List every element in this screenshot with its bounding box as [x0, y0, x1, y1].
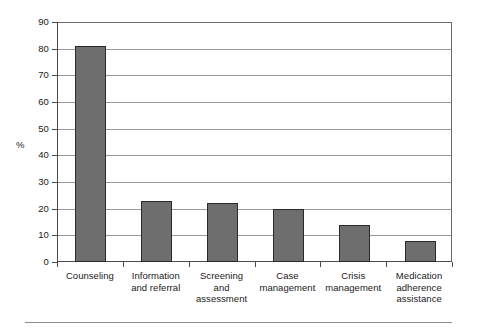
x-tick-label-line: Counseling [53, 270, 127, 282]
y-tick-label: 40 [9, 150, 49, 160]
x-tick-mark [57, 262, 58, 267]
x-tick-label-line: Case [251, 270, 325, 282]
x-tick-label-line: adherence [382, 282, 456, 294]
y-tick-label: 60 [9, 97, 49, 107]
x-tick-label: Crisismanagement [316, 270, 390, 293]
bar-chart-figure: % 0102030405060708090 CounselingInformat… [0, 0, 479, 332]
gridline [58, 75, 451, 76]
footer-rule [25, 322, 452, 323]
x-tick-label-line: and [185, 282, 259, 294]
y-tick-label: 30 [9, 177, 49, 187]
y-tick-label: 90 [9, 17, 49, 27]
x-tick-label-line: Information [119, 270, 193, 282]
x-tick-label-line: and referral [119, 282, 193, 294]
y-tick-label: 50 [9, 124, 49, 134]
y-tick-label: 70 [9, 70, 49, 80]
gridline [58, 182, 451, 183]
plot-area [57, 22, 452, 262]
x-tick-mark [189, 262, 190, 267]
bar [141, 201, 172, 262]
x-tick-label-line: management [251, 282, 325, 294]
y-tick-label: 20 [9, 204, 49, 214]
y-tick-label: 0 [9, 257, 49, 267]
bar [273, 209, 304, 262]
x-tick-mark [386, 262, 387, 267]
gridline [58, 22, 451, 23]
x-tick-label: Counseling [53, 270, 127, 282]
x-tick-mark [452, 262, 453, 267]
x-tick-label-line: Crisis [316, 270, 390, 282]
gridline [58, 209, 451, 210]
y-tick-label: 80 [9, 44, 49, 54]
bar [75, 46, 106, 262]
y-tick-label: 10 [9, 230, 49, 240]
gridline [58, 102, 451, 103]
x-tick-mark [123, 262, 124, 267]
x-tick-label-line: Screening [185, 270, 259, 282]
x-tick-label: Informationand referral [119, 270, 193, 293]
x-tick-label: Casemanagement [251, 270, 325, 293]
x-tick-label-line: management [316, 282, 390, 294]
x-tick-label-line: assessment [185, 293, 259, 305]
x-tick-mark [320, 262, 321, 267]
gridline [58, 49, 451, 50]
x-tick-label: Medicationadherenceassistance [382, 270, 456, 305]
bar [207, 203, 238, 262]
x-tick-mark [255, 262, 256, 267]
bar [339, 225, 370, 262]
x-tick-label-line: assistance [382, 293, 456, 305]
y-axis-title: % [16, 140, 24, 150]
gridline [58, 235, 451, 236]
gridline [58, 129, 451, 130]
x-tick-label-line: Medication [382, 270, 456, 282]
gridline [58, 155, 451, 156]
x-tick-label: Screeningandassessment [185, 270, 259, 305]
bar [405, 241, 436, 262]
